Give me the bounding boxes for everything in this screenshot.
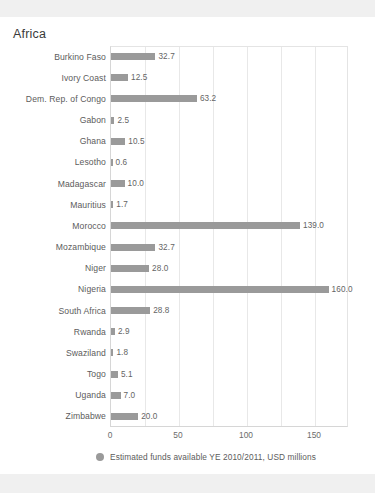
bar-value-label: 20.0 — [141, 412, 157, 421]
bar-value-label: 2.9 — [118, 327, 130, 336]
bar-value-label: 10.5 — [128, 137, 144, 146]
category-label: Niger — [0, 263, 106, 273]
category-label: Lesotho — [0, 157, 106, 167]
bar-value-label: 32.7 — [158, 52, 174, 61]
category-label: Ivory Coast — [0, 73, 106, 83]
chart-row: Ivory Coast12.5 — [0, 67, 375, 88]
bar[interactable] — [111, 138, 125, 145]
category-label: South Africa — [0, 306, 106, 316]
bar-group: 1.8 — [111, 348, 128, 357]
bar-group: 32.7 — [111, 52, 175, 61]
bar-value-label: 7.0 — [124, 391, 136, 400]
bar[interactable] — [111, 180, 125, 187]
bar[interactable] — [111, 328, 115, 335]
bar[interactable] — [111, 307, 150, 314]
category-label: Morocco — [0, 221, 106, 231]
bar-group: 28.0 — [111, 264, 168, 273]
category-label: Uganda — [0, 390, 106, 400]
chart-row: Niger28.0 — [0, 258, 375, 279]
chart-title: Africa — [13, 27, 46, 41]
chart-row: Mauritius1.7 — [0, 194, 375, 215]
bar-value-label: 5.1 — [121, 370, 133, 379]
bar-value-label: 1.8 — [116, 348, 128, 357]
chart-row: Rwanda2.9 — [0, 321, 375, 342]
category-label: Madagascar — [0, 179, 106, 189]
bar[interactable] — [111, 286, 329, 293]
bar-value-label: 12.5 — [131, 73, 147, 82]
bar[interactable] — [111, 371, 118, 378]
chart-legend: Estimated funds available YE 2010/2011, … — [96, 452, 316, 462]
legend-marker-icon — [96, 453, 104, 461]
bar[interactable] — [111, 349, 113, 356]
category-label: Nigeria — [0, 284, 106, 294]
bar[interactable] — [111, 53, 155, 60]
bar-value-label: 1.7 — [116, 200, 128, 209]
bar-group: 10.0 — [111, 179, 144, 188]
chart-row: South Africa28.8 — [0, 300, 375, 321]
category-label: Mauritius — [0, 200, 106, 210]
category-label: Togo — [0, 369, 106, 379]
bar-rows: Burkino Faso32.7Ivory Coast12.5Dem. Rep.… — [0, 46, 375, 427]
chart-plot-wrapper: Burkino Faso32.7Ivory Coast12.5Dem. Rep.… — [0, 42, 375, 432]
bar-value-label: 2.5 — [117, 116, 129, 125]
bar-value-label: 28.8 — [153, 306, 169, 315]
bar[interactable] — [111, 244, 155, 251]
chart-row: Madagascar10.0 — [0, 173, 375, 194]
bar-value-label: 63.2 — [200, 94, 216, 103]
category-label: Dem. Rep. of Congo — [0, 94, 106, 104]
category-label: Zimbabwe — [0, 411, 106, 421]
bar-group: 2.9 — [111, 327, 130, 336]
category-label: Ghana — [0, 136, 106, 146]
chart-row: Nigeria160.0 — [0, 279, 375, 300]
bar-value-label: 160.0 — [332, 285, 353, 294]
bar[interactable] — [111, 159, 113, 166]
chart-row: Swaziland1.8 — [0, 342, 375, 363]
bar-group: 28.8 — [111, 306, 170, 315]
bar-group: 2.5 — [111, 116, 129, 125]
x-axis-ticks: 050100150 — [0, 430, 375, 446]
x-tick-label: 50 — [173, 430, 182, 440]
bar-value-label: 10.0 — [128, 179, 144, 188]
bar-group: 1.7 — [111, 200, 128, 209]
bottom-chrome-band — [0, 474, 375, 493]
category-label: Gabon — [0, 115, 106, 125]
category-label: Swaziland — [0, 348, 106, 358]
bar[interactable] — [111, 222, 300, 229]
bar[interactable] — [111, 95, 197, 102]
category-label: Burkino Faso — [0, 52, 106, 62]
bar-group: 63.2 — [111, 94, 216, 103]
chart-row: Uganda7.0 — [0, 385, 375, 406]
legend-label: Estimated funds available YE 2010/2011, … — [110, 452, 316, 462]
bar-value-label: 28.0 — [152, 264, 168, 273]
top-chrome-band — [0, 0, 375, 17]
chart-row: Zimbabwe20.0 — [0, 406, 375, 427]
chart-row: Morocco139.0 — [0, 215, 375, 236]
category-label: Mozambique — [0, 242, 106, 252]
chart-row: Ghana10.5 — [0, 131, 375, 152]
bar-group: 160.0 — [111, 285, 353, 294]
category-label: Rwanda — [0, 327, 106, 337]
bar-group: 0.6 — [111, 158, 127, 167]
chart-row: Dem. Rep. of Congo63.2 — [0, 88, 375, 109]
bar[interactable] — [111, 74, 128, 81]
bar-group: 12.5 — [111, 73, 147, 82]
chart-row: Burkino Faso32.7 — [0, 46, 375, 67]
chart-row: Togo5.1 — [0, 364, 375, 385]
x-tick-label: 0 — [108, 430, 113, 440]
bar[interactable] — [111, 117, 114, 124]
bar-value-label: 139.0 — [303, 221, 324, 230]
bar-value-label: 32.7 — [158, 243, 174, 252]
chart-row: Mozambique32.7 — [0, 237, 375, 258]
chart-row: Lesotho0.6 — [0, 152, 375, 173]
bar[interactable] — [111, 265, 149, 272]
chart-row: Gabon2.5 — [0, 110, 375, 131]
bar-group: 5.1 — [111, 370, 133, 379]
x-tick-label: 150 — [307, 430, 321, 440]
bar[interactable] — [111, 392, 121, 399]
bar[interactable] — [111, 201, 113, 208]
bar-group: 32.7 — [111, 243, 175, 252]
bar[interactable] — [111, 413, 138, 420]
bar-group: 139.0 — [111, 221, 324, 230]
bar-value-label: 0.6 — [116, 158, 128, 167]
bar-group: 20.0 — [111, 412, 158, 421]
